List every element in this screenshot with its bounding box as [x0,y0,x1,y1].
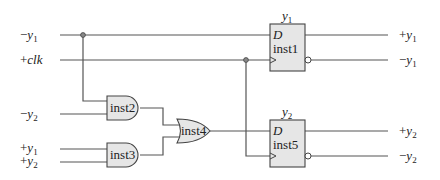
inverted-output-bubble [305,57,311,63]
gate-label: inst4 [181,123,207,138]
input-label: +clk [20,52,43,67]
junction-dot [244,58,249,63]
or-gate-inst4: inst4 [177,119,210,143]
output-labels: +y1 −y1 +y2 −y2 [399,27,417,165]
d-input-label: D [272,27,283,42]
flipflop-title: y2 [280,104,292,121]
gate-label: inst2 [110,100,135,115]
inverted-output-bubble [305,153,311,159]
and-gate-inst3: inst3 [107,143,138,167]
input-label: −y1 [20,27,38,44]
logic-diagram: −y1 +clk −y2 +y1 +y2 inst2 inst3 inst4 y… [0,0,440,180]
d-input-label: D [272,123,283,138]
and-gate-inst2: inst2 [107,96,138,120]
output-label: +y1 [399,27,417,44]
output-label: +y2 [399,123,417,140]
input-label: −y2 [20,106,38,123]
d-flipflop-inst5: y2 D inst5 [270,104,311,167]
junction-dot [81,33,86,38]
output-label: −y2 [399,148,417,165]
flipflop-title: y1 [280,8,292,25]
d-flipflop-inst1: y1 D inst1 [270,8,311,71]
gate-label: inst3 [110,147,135,162]
input-labels: −y1 +clk −y2 +y1 +y2 [20,27,43,170]
output-label: −y1 [399,52,417,69]
flipflop-label: inst5 [273,137,298,152]
flipflop-label: inst1 [273,41,298,56]
